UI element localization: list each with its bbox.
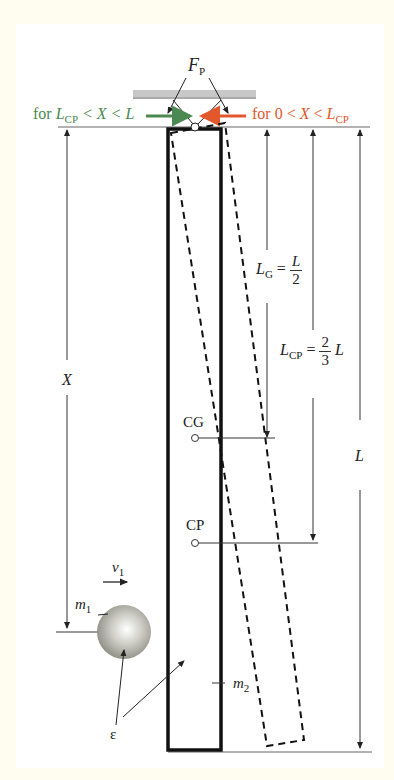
cg-marker [192,435,199,442]
l-dimension-label: L [355,448,364,464]
pivot-point [191,123,199,131]
cp-label: CP [186,518,204,533]
x-dimension-label: X [62,372,72,388]
pivot-support-bar [133,90,256,97]
lg-formula: LG = L2 [256,254,302,287]
force-label: FP [188,56,205,77]
epsilon-label: ε [110,727,116,742]
green-range-label: for LCP < X < L [33,106,134,125]
mass2-label: m2 [233,676,249,694]
mass1-label: m1 [75,597,91,615]
cg-label: CG [183,415,204,430]
velocity-label: v1 [112,560,124,578]
red-range-label: for 0 < X < LCP [252,106,349,125]
rod-swung-position [171,123,304,746]
cp-marker [192,540,199,547]
lcp-formula: LCP = 23 L [280,335,344,368]
